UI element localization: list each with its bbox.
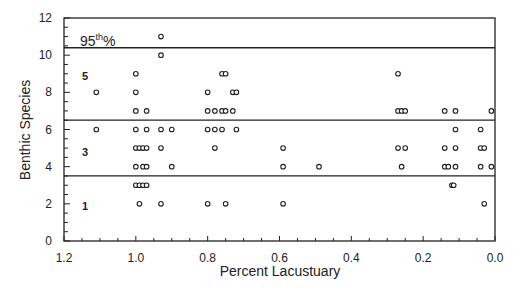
- x-tick-label: 0.0: [487, 251, 504, 265]
- data-point: [281, 146, 286, 151]
- data-point: [446, 164, 451, 169]
- data-point: [144, 146, 149, 151]
- data-point: [453, 164, 458, 169]
- data-point: [205, 202, 210, 207]
- data-point: [442, 109, 447, 114]
- data-point: [137, 202, 142, 207]
- y-tick-label: 4: [45, 160, 52, 174]
- data-point: [453, 146, 458, 151]
- data-point: [478, 127, 483, 132]
- plot-border: [64, 18, 495, 241]
- data-point: [317, 164, 322, 169]
- x-tick-label: 1.0: [127, 251, 144, 265]
- data-point: [399, 164, 404, 169]
- data-point: [94, 127, 99, 132]
- data-point: [403, 146, 408, 151]
- chart-canvas: 1.21.00.80.60.40.20.0 024681012 531 95th…: [0, 0, 518, 295]
- data-point: [213, 109, 218, 114]
- data-point: [205, 127, 210, 132]
- data-point: [396, 71, 401, 76]
- y-tick-label: 8: [45, 85, 52, 99]
- data-point: [220, 127, 225, 132]
- y-tick-label: 10: [39, 48, 53, 62]
- data-point: [134, 90, 139, 95]
- y-tick-label: 0: [45, 234, 52, 248]
- x-tick-label: 0.2: [415, 251, 432, 265]
- data-point: [223, 202, 228, 207]
- data-point: [144, 109, 149, 114]
- data-point: [482, 146, 487, 151]
- data-point: [159, 34, 164, 39]
- y-tick-label: 2: [45, 197, 52, 211]
- x-tick-label: 0.4: [343, 251, 360, 265]
- data-point: [453, 109, 458, 114]
- data-point: [482, 202, 487, 207]
- data-point: [159, 53, 164, 58]
- data-point: [144, 127, 149, 132]
- data-point: [234, 90, 239, 95]
- data-point: [489, 164, 494, 169]
- data-point: [159, 146, 164, 151]
- data-point: [94, 90, 99, 95]
- y-axis-title: Benthic Species: [17, 80, 33, 180]
- data-point: [403, 109, 408, 114]
- data-point: [144, 164, 149, 169]
- percentile-label: 95th%: [80, 32, 116, 49]
- data-point: [169, 127, 174, 132]
- data-point: [213, 146, 218, 151]
- data-point: [223, 71, 228, 76]
- y-axis: 024681012: [39, 11, 70, 248]
- zone-label: 3: [82, 146, 88, 158]
- data-point: [169, 164, 174, 169]
- data-point: [231, 109, 236, 114]
- data-point: [159, 127, 164, 132]
- data-point: [144, 183, 149, 188]
- x-tick-label: 0.8: [199, 251, 216, 265]
- zone-labels: 531: [82, 70, 88, 212]
- plot-frame: [64, 18, 495, 241]
- zone-label: 1: [82, 200, 88, 212]
- scatter-chart: 1.21.00.80.60.40.20.0 024681012 531 95th…: [0, 0, 518, 295]
- data-point: [223, 109, 228, 114]
- zone-label: 5: [82, 70, 88, 82]
- reference-lines: [64, 48, 495, 176]
- x-tick-label: 1.2: [56, 251, 73, 265]
- data-point: [134, 109, 139, 114]
- data-point: [281, 164, 286, 169]
- data-point: [134, 127, 139, 132]
- data-point: [213, 127, 218, 132]
- data-point: [281, 202, 286, 207]
- data-point: [134, 71, 139, 76]
- y-tick-label: 6: [45, 123, 52, 137]
- data-point: [451, 183, 456, 188]
- data-point: [234, 127, 239, 132]
- x-axis-title: Percent Lacustuary: [220, 263, 341, 279]
- data-point: [159, 202, 164, 207]
- y-tick-label: 12: [39, 11, 53, 25]
- data-point: [134, 164, 139, 169]
- data-point: [442, 146, 447, 151]
- data-point: [478, 164, 483, 169]
- data-point: [205, 109, 210, 114]
- data-point: [453, 127, 458, 132]
- data-point: [489, 109, 494, 114]
- data-point: [396, 146, 401, 151]
- data-point: [205, 90, 210, 95]
